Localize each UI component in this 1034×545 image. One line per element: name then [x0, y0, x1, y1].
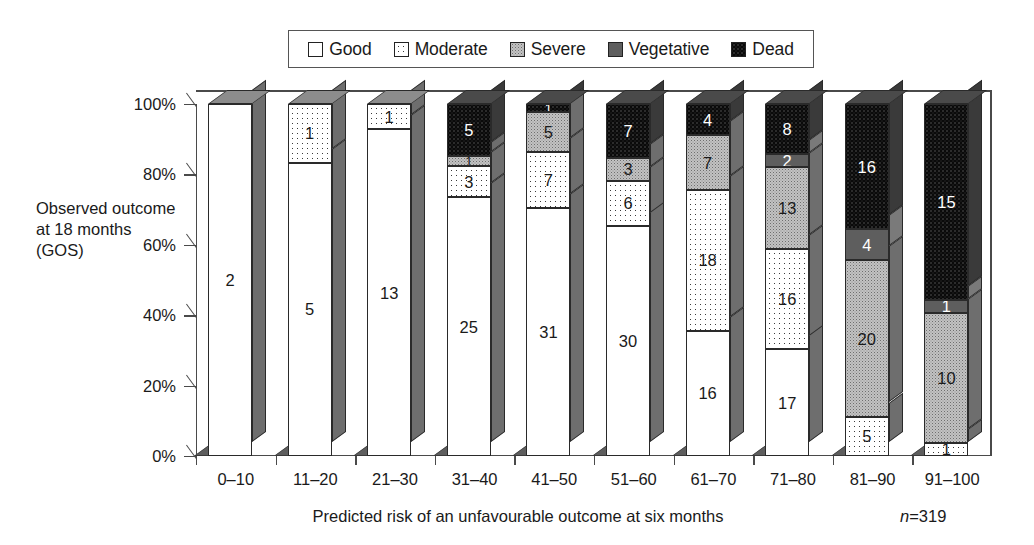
bar-segment-good[interactable]: 2: [208, 104, 252, 456]
bar-segment-dead[interactable]: 1: [526, 104, 570, 112]
bar-segment-severe[interactable]: 7: [686, 135, 730, 190]
bar-segment-good[interactable]: 5: [288, 163, 332, 456]
legend-item-severe[interactable]: Severe: [510, 39, 586, 60]
stacked-bar[interactable]: 520416: [845, 104, 889, 456]
bar-segment-side-face: [650, 202, 664, 442]
bar-segment-moderate[interactable]: 18: [686, 190, 730, 331]
bar-segment-side-face: [809, 80, 823, 140]
bar-segment-value: 3: [607, 161, 649, 178]
bar-segment-side-face: [809, 143, 823, 235]
bar-segment-severe[interactable]: 10: [924, 313, 968, 443]
bar-segment-good[interactable]: 16: [686, 331, 730, 456]
x-axis-tick: [435, 456, 436, 465]
y-axis-tick-label: 0%: [152, 447, 176, 466]
bar-segment-moderate[interactable]: 7: [526, 152, 570, 208]
stacked-bar[interactable]: 161874: [686, 104, 730, 456]
bar-segment-good[interactable]: 31: [526, 208, 570, 456]
bar-segment-moderate[interactable]: 5: [845, 417, 889, 456]
bar-segment-dead[interactable]: 16: [845, 104, 889, 229]
legend-item-vegetative[interactable]: Vegetative: [608, 39, 710, 60]
bar-segment-value: 1: [368, 108, 410, 125]
bar-segment-severe[interactable]: 20: [845, 260, 889, 416]
bar-segment-value: 30: [607, 333, 649, 350]
bar-segment-value: 10: [925, 370, 967, 387]
x-axis-tick: [514, 456, 515, 465]
bar-segment-vegetative[interactable]: 1: [924, 300, 968, 313]
x-axis-tick: [594, 456, 595, 465]
legend-label: Good: [329, 39, 371, 60]
x-axis-tick-label: 31–40: [452, 470, 498, 489]
legend-swatch-good-icon: [308, 42, 323, 57]
bar-segment-value: 1: [527, 104, 569, 112]
x-axis-tick-label: 91–100: [925, 470, 980, 489]
bar-segment-dead[interactable]: 4: [686, 104, 730, 135]
bar-segment-severe[interactable]: 13: [765, 167, 809, 249]
bar-segment-moderate[interactable]: 6: [606, 181, 650, 227]
bar-segment-value: 16: [846, 158, 888, 175]
bar-segment-vegetative[interactable]: 2: [765, 154, 809, 167]
legend-item-moderate[interactable]: Moderate: [394, 39, 488, 60]
bar-segment-moderate[interactable]: 1: [924, 443, 968, 456]
x-axis-tick-label: 41–50: [531, 470, 577, 489]
x-axis-tick-label: 81–90: [850, 470, 896, 489]
stacked-bar[interactable]: 25315: [447, 104, 491, 456]
x-axis-tick-label: 61–70: [690, 470, 736, 489]
bar-segment-side-face: [570, 184, 584, 442]
bar-segment-value: 7: [527, 172, 569, 189]
sample-size-note: n=319: [900, 507, 946, 526]
bar-segment-severe[interactable]: 3: [606, 158, 650, 181]
bar-segment-good[interactable]: 13: [367, 129, 411, 456]
bar-segment-severe[interactable]: 5: [526, 112, 570, 152]
bar-segment-moderate[interactable]: 1: [288, 104, 332, 163]
legend-item-good[interactable]: Good: [308, 39, 371, 60]
bar-segment-side-face: [968, 288, 982, 429]
stacked-bar[interactable]: 131: [367, 104, 411, 456]
bar-segment-moderate[interactable]: 3: [447, 166, 491, 197]
bar-segment-side-face: [491, 173, 505, 442]
chart-root: GoodModerateSevereVegetativeDead Observe…: [0, 0, 1034, 545]
bar-segment-moderate[interactable]: 1: [367, 104, 411, 129]
bar-segment-value: 25: [448, 318, 490, 335]
bar-segment-good[interactable]: 17: [765, 349, 809, 456]
bar-segment-value: 16: [766, 291, 808, 308]
bar-segment-value: 5: [846, 428, 888, 445]
bar-segment-side-face: [411, 105, 425, 442]
x-axis-tick-label: 11–20: [293, 470, 338, 489]
bar-segment-severe[interactable]: 1: [447, 156, 491, 166]
stacked-bar[interactable]: 30637: [606, 104, 650, 456]
bar-segment-value: 20: [846, 330, 888, 347]
bar-segment-value: 7: [687, 154, 729, 171]
bar-segment-good[interactable]: 25: [447, 197, 491, 456]
bar-segment-good[interactable]: 30: [606, 226, 650, 456]
bar-segment-value: 7: [607, 123, 649, 140]
stacked-bar[interactable]: 110115: [924, 104, 968, 456]
legend-label: Severe: [531, 39, 586, 60]
bar-segment-value: 5: [448, 122, 490, 139]
sample-size-value: =319: [909, 507, 946, 525]
bar-segment-value: 6: [607, 195, 649, 212]
plot-area: 0%20%40%60%80%100%0–10211–205121–3013131…: [196, 104, 992, 456]
chart-legend: GoodModerateSevereVegetativeDead: [288, 30, 814, 68]
x-axis-tick-label: 71–80: [770, 470, 816, 489]
stacked-bar[interactable]: 17161328: [765, 104, 809, 456]
bar-segment-value: 31: [527, 324, 569, 341]
stacked-bar[interactable]: 2: [208, 104, 252, 456]
legend-swatch-dead-icon: [731, 42, 746, 57]
sample-size-symbol: n: [900, 507, 909, 525]
legend-swatch-severe-icon: [510, 42, 525, 57]
stacked-bar[interactable]: 31751: [526, 104, 570, 456]
legend-item-dead[interactable]: Dead: [731, 39, 793, 60]
bar-segment-vegetative[interactable]: 4: [845, 229, 889, 260]
bar-segment-dead[interactable]: 5: [447, 104, 491, 156]
y-axis-tick-label: 40%: [143, 306, 176, 325]
bar-segment-dead[interactable]: 15: [924, 104, 968, 300]
stacked-bar[interactable]: 51: [288, 104, 332, 456]
bar-segment-side-face: [332, 139, 346, 442]
bar-segment-moderate[interactable]: 16: [765, 249, 809, 350]
y-axis-tick-label: 60%: [143, 235, 176, 254]
bar-segment-value: 1: [289, 125, 331, 142]
bar-segment-side-face: [889, 236, 903, 403]
x-axis-tick: [833, 456, 834, 465]
bar-segment-dead[interactable]: 8: [765, 104, 809, 154]
bar-segment-dead[interactable]: 7: [606, 104, 650, 158]
